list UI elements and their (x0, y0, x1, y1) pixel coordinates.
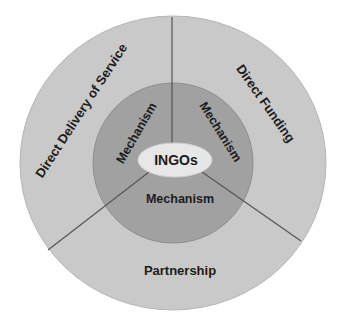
mechanism-bottom-label: Mechanism (146, 192, 214, 206)
partnership-label: Partnership (144, 263, 216, 278)
ingo-mechanism-diagram: INGOs Mechanism Mechanism Mechanism Dire… (0, 0, 342, 325)
core-label: INGOs (154, 152, 198, 168)
